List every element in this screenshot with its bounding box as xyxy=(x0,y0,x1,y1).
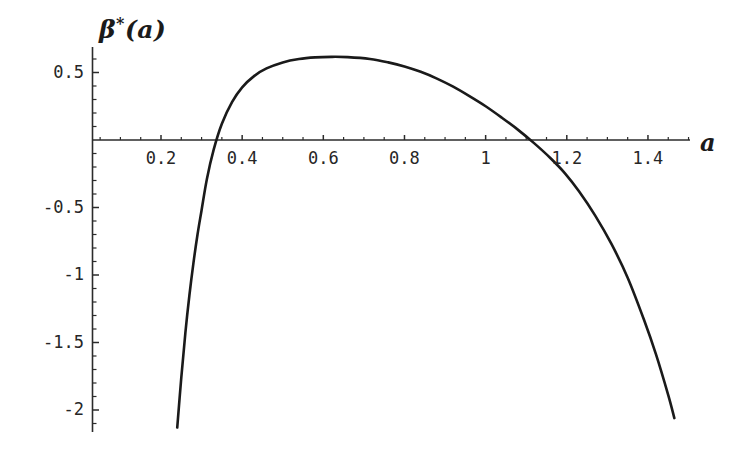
x-tick-label: 0.6 xyxy=(283,148,363,168)
y-axis-major-ticks xyxy=(93,73,100,411)
x-axis-label: a xyxy=(700,128,716,157)
y-tick-label: -1 xyxy=(0,264,84,284)
plot-figure: β*(a) a 0.20.40.60.811.21.4 0.5-0.5-1-1.… xyxy=(0,0,748,459)
x-tick-label: 1.4 xyxy=(608,148,688,168)
x-tick-label: 0.2 xyxy=(121,148,201,168)
beta-star-curve xyxy=(177,57,674,428)
x-tick-label: 0.8 xyxy=(364,148,444,168)
y-axis-label-argument: (a) xyxy=(125,15,166,44)
y-tick-label: 0.5 xyxy=(0,62,84,82)
chart-canvas xyxy=(0,0,748,459)
x-tick-label: 0.4 xyxy=(202,148,282,168)
y-tick-label: -0.5 xyxy=(0,197,84,217)
y-tick-label: -2 xyxy=(0,399,84,419)
y-axis-label: β*(a) xyxy=(99,14,166,44)
x-tick-label: 1 xyxy=(446,148,526,168)
y-tick-label: -1.5 xyxy=(0,332,84,352)
x-tick-label: 1.2 xyxy=(527,148,607,168)
y-axis-label-star: * xyxy=(116,14,125,33)
y-axis-label-beta: β xyxy=(99,15,116,44)
